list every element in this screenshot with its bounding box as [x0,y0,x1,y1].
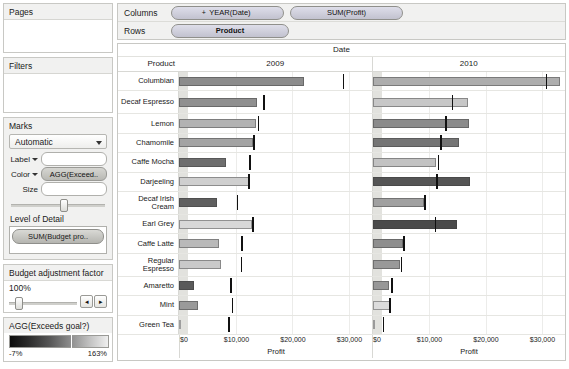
reference-line[interactable] [232,298,234,313]
columns-pill-sum-profit[interactable]: SUM(Profit) [290,6,403,20]
bar-mark[interactable] [373,158,436,167]
chart-row[interactable]: Decaf Irish Cream [118,192,565,215]
size-slider[interactable] [11,198,105,210]
reference-line[interactable] [249,155,251,170]
reference-line[interactable] [401,257,403,272]
row-header-chamomile[interactable]: Chamomile [118,134,179,152]
row-header-columbian[interactable]: Columbian [118,72,179,90]
mark-type-select[interactable]: Automatic [9,134,107,149]
chart-row[interactable]: Regular Espresso [118,254,565,277]
color-shelf-button[interactable]: Color [9,170,41,179]
bar-mark[interactable] [179,77,304,86]
reference-line[interactable] [241,236,243,251]
color-shelf-pill[interactable]: AGG(Exceed.. [41,167,107,181]
level-of-detail-pill[interactable]: SUM(Budget pro.. [12,229,104,244]
bar-mark[interactable] [179,158,226,167]
chart-row[interactable]: Green Tea [118,316,565,335]
reference-line[interactable] [253,135,255,150]
reference-line[interactable] [391,278,393,293]
pages-shelf-dropzone[interactable] [4,19,112,52]
row-header-amaretto[interactable]: Amaretto [118,277,179,295]
reference-line[interactable] [263,95,265,110]
chart-row[interactable]: Amaretto [118,277,565,296]
bar-mark[interactable] [373,220,457,229]
reference-line[interactable] [435,217,437,232]
reference-line[interactable] [248,174,250,189]
bar-mark[interactable] [179,220,252,229]
chart-row[interactable]: Lemon [118,114,565,133]
label-shelf-dropzone[interactable] [41,152,107,166]
bar-mark[interactable] [179,239,219,248]
bar-mark[interactable] [373,260,400,269]
row-header-lemon[interactable]: Lemon [118,114,179,132]
row-header-earl-grey[interactable]: Earl Grey [118,215,179,233]
bar-mark[interactable] [179,198,217,207]
chart-row[interactable]: Earl Grey [118,215,565,234]
chart-row[interactable]: Mint [118,296,565,315]
chart-row[interactable]: Decaf Espresso [118,91,565,114]
row-header-mint[interactable]: Mint [118,296,179,314]
reference-line[interactable] [383,317,385,332]
filters-shelf-dropzone[interactable] [4,73,112,112]
parameter-prev-button[interactable]: ◂ [80,295,93,308]
parameter-slider-knob[interactable] [15,297,23,310]
reference-line[interactable] [252,217,254,232]
row-header-decaf-irish-cream[interactable]: Decaf Irish Cream [118,192,179,214]
bar-mark[interactable] [373,77,561,86]
bar-mark[interactable] [373,198,425,207]
chart-row[interactable]: Caffe Mocha [118,153,565,172]
bar-mark[interactable] [179,260,221,269]
x-axis-2009[interactable]: $0$10,000$20,000$30,000 [180,335,372,347]
columns-pill-year-date[interactable]: + 2009 YEAR(Date) [171,6,284,20]
bar-mark[interactable] [179,281,194,290]
x-axis-2010[interactable]: $0$10,000$20,000$30,000 [372,335,565,347]
bar-mark[interactable] [373,119,469,128]
bar-mark[interactable] [373,138,460,147]
size-shelf-dropzone[interactable] [41,182,107,196]
chart-row[interactable]: Caffe Latte [118,234,565,253]
bar-mark[interactable] [373,98,469,107]
size-slider-knob[interactable] [60,199,68,212]
bar-mark[interactable] [373,301,391,310]
bar-mark[interactable] [179,177,250,186]
reference-line[interactable] [228,317,230,332]
row-header-decaf-espresso[interactable]: Decaf Espresso [118,91,179,113]
bar-mark[interactable] [179,119,256,128]
bar-mark[interactable] [373,281,389,290]
row-header-regular-espresso[interactable]: Regular Espresso [118,254,179,276]
parameter-slider[interactable] [9,296,77,308]
reference-line[interactable] [452,95,454,110]
reference-line[interactable] [241,257,243,272]
row-header-caffe-mocha[interactable]: Caffe Mocha [118,153,179,171]
label-shelf-button[interactable]: Label [9,155,41,164]
row-header-green-tea[interactable]: Green Tea [118,316,179,334]
level-of-detail-empty-space[interactable] [12,244,104,251]
color-legend-gradient[interactable] [9,335,109,348]
panel-header-2009[interactable]: 2009 [179,57,372,71]
reference-line[interactable] [258,116,260,131]
bar-mark[interactable] [179,320,181,329]
bar-mark[interactable] [179,138,253,147]
reference-line[interactable] [230,278,232,293]
bar-mark[interactable] [179,98,257,107]
parameter-next-button[interactable]: ▸ [94,295,107,308]
reference-line[interactable] [436,174,438,189]
row-header-caffe-latte[interactable]: Caffe Latte [118,234,179,252]
reference-line[interactable] [237,195,239,210]
chart-row[interactable]: Darjeeling [118,173,565,192]
row-header-darjeeling[interactable]: Darjeeling [118,173,179,191]
reference-line[interactable] [445,116,447,131]
reference-line[interactable] [403,236,405,251]
bar-mark[interactable] [179,301,198,310]
reference-line[interactable] [343,74,345,89]
reference-line[interactable] [546,74,548,89]
expand-plus-icon[interactable]: + [200,9,207,16]
reference-line[interactable] [389,298,391,313]
rows-pill-product[interactable]: Product [171,24,289,38]
level-of-detail-dropzone[interactable]: SUM(Budget pro.. [9,226,107,254]
panel-header-2010[interactable]: 2010 [372,57,566,71]
chart-row[interactable]: Chamomile [118,134,565,153]
chart-row[interactable]: Columbian [118,72,565,91]
bar-mark[interactable] [373,320,375,329]
reference-line[interactable] [440,135,442,150]
